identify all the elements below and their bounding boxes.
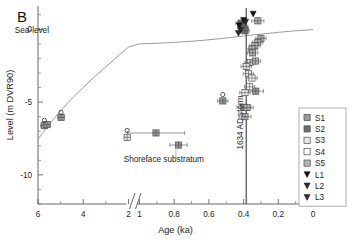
shoreface-substratum-label: Shoreface substratum <box>124 155 204 164</box>
legend-marker-square <box>304 114 310 120</box>
marker-crossed-square <box>252 58 258 64</box>
storm-line-label: 1634 AD storm <box>236 95 245 149</box>
x-tick-label: 0.8 <box>169 210 181 219</box>
legend-label: L2 <box>315 182 325 191</box>
marker-crossed-square <box>153 130 159 136</box>
x-tick-label: 2 <box>126 210 131 219</box>
legend[interactable]: S1S2S3S4S5L1L2L3 <box>299 108 346 206</box>
x-tick-label: 4 <box>81 210 86 219</box>
legend-label: S5 <box>315 159 325 168</box>
x-tick-label: 0.4 <box>238 210 250 219</box>
x-tick-label: 0.2 <box>273 210 285 219</box>
marker-crossed-square <box>250 50 256 56</box>
marker-crossed-square <box>253 88 259 94</box>
legend-label: L1 <box>315 171 325 180</box>
marker-crossed-square <box>242 90 248 96</box>
marker-crossed-square <box>220 98 226 104</box>
legend-label: S2 <box>315 125 325 134</box>
x-axis-title: Age (ka) <box>158 225 193 235</box>
scatter-plot-svg: B 0-5-1064210.80.60.40.20Age (ka)Level (… <box>0 0 353 252</box>
panel-label: B <box>17 8 27 25</box>
legend-label: S3 <box>315 136 325 145</box>
marker-crossed-square <box>243 63 249 69</box>
legend-box <box>299 108 346 206</box>
marker-crossed-square <box>58 114 64 120</box>
legend-marker-square <box>304 137 310 143</box>
y-tick-label: -10 <box>20 171 32 180</box>
legend-marker-square <box>304 160 310 166</box>
x-tick-label: 0 <box>311 210 316 219</box>
x-tick-label: 1 <box>137 210 142 219</box>
y-tick-label: -5 <box>25 98 33 107</box>
figure-panel-b: B 0-5-1064210.80.60.40.20Age (ka)Level (… <box>0 0 353 252</box>
marker-crossed-square <box>247 84 253 90</box>
sea-level-label: Sea-level <box>15 26 49 35</box>
marker-crossed-square <box>175 142 181 148</box>
legend-label: L3 <box>315 193 325 202</box>
legend-marker-square <box>304 126 310 132</box>
legend-label: S4 <box>315 148 325 157</box>
x-tick-label: 6 <box>36 210 41 219</box>
x-tick-label: 0.6 <box>203 210 215 219</box>
legend-label: S1 <box>315 114 325 123</box>
marker-crossed-square <box>255 18 261 24</box>
y-axis-title: Level (m DVR90) <box>5 70 15 140</box>
marker-crossed-square <box>249 75 255 81</box>
marker-crossed-square <box>124 134 130 140</box>
legend-marker-square <box>304 149 310 155</box>
